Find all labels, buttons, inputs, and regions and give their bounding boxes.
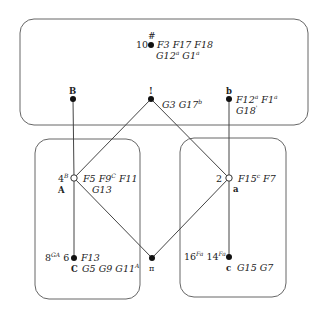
edge-B-A [73, 99, 74, 178]
label-F12: F12 [236, 94, 255, 105]
label-G11-sup: A [135, 262, 139, 269]
label-G18-sup: ' [256, 104, 258, 111]
node-10[interactable] [148, 42, 154, 48]
label-F15-sup: c [257, 172, 260, 179]
label-F1-sup: a [274, 93, 278, 100]
label-14-sup: Fa [219, 250, 226, 257]
node-C-numbers: 8GA 6 [45, 253, 69, 263]
label-G12-sup: a [176, 49, 180, 56]
node-C-annotation-line2: G5 G9 G11A [82, 264, 139, 274]
label-6: 6 [63, 252, 69, 263]
label-8-sup: GA [51, 251, 60, 258]
label-F15: F15 [238, 173, 257, 184]
label-F7: F7 [263, 173, 276, 184]
node-a-annotation-line1: F15c F7 [238, 174, 276, 184]
label-F11: F11 [119, 173, 138, 184]
label-4-sup: B [64, 172, 68, 179]
node-bang[interactable] [148, 96, 154, 102]
label-16: 16 [184, 251, 196, 262]
region-left [35, 139, 140, 299]
region-right [180, 138, 286, 297]
node-b-annotation-line2: G18' [236, 106, 257, 116]
label-G12: G12 [156, 50, 176, 61]
node-pi-label: π [149, 264, 154, 274]
node-bang-annotation: G3 G17b [162, 100, 202, 110]
node-bang-label: ! [149, 86, 153, 96]
label-F12-sup: a [255, 93, 259, 100]
node-B[interactable] [70, 96, 76, 102]
node-A[interactable] [71, 175, 77, 181]
label-G17: G17 [179, 99, 199, 110]
node-10-number: 10 [136, 40, 148, 50]
label-F9: F9 [99, 173, 112, 184]
node-a-number: 2 [216, 174, 222, 184]
label-16-sup: Fa [196, 250, 203, 257]
node-C-annotation-line1: F13 [81, 253, 100, 263]
node-C[interactable] [71, 255, 77, 261]
label-G1-sup: a [196, 49, 200, 56]
node-c-numbers: 16Fa 14Fa [184, 252, 226, 262]
label-G5: G5 [82, 263, 96, 274]
label-F1: F1 [261, 94, 274, 105]
node-pi[interactable] [149, 255, 155, 261]
label-F9-sup: C [111, 172, 116, 179]
label-G18: G18 [236, 105, 256, 116]
node-B-label: B [69, 86, 76, 96]
label-F5: F5 [83, 173, 96, 184]
node-A-annotation-line1: F5 F9C F11 [83, 174, 138, 184]
label-G1: G1 [182, 50, 196, 61]
node-10-annotation-line2: G12a G1a [156, 51, 200, 61]
node-a-label: a [233, 184, 239, 194]
node-b-label: b [226, 86, 232, 96]
label-G11: G11 [115, 263, 135, 274]
node-A-annotation-line2: G13 [92, 185, 112, 195]
node-10-mark: # [148, 31, 156, 41]
node-c-label: c [226, 263, 231, 273]
label-14: 14 [206, 251, 218, 262]
node-a[interactable] [226, 175, 232, 181]
label-G17-sup: b [198, 98, 202, 105]
node-c-annotation: G15 G7 [237, 263, 273, 273]
node-C-label: C [71, 264, 78, 274]
node-A-label: A [58, 185, 65, 195]
label-G9: G9 [99, 263, 113, 274]
node-A-number: 4B [58, 174, 68, 184]
node-10-annotation-line1: F3 F17 F18 [157, 40, 213, 50]
label-G3: G3 [162, 99, 176, 110]
node-b[interactable] [226, 96, 232, 102]
edge-a-pi [152, 178, 229, 258]
node-c[interactable] [226, 254, 232, 260]
